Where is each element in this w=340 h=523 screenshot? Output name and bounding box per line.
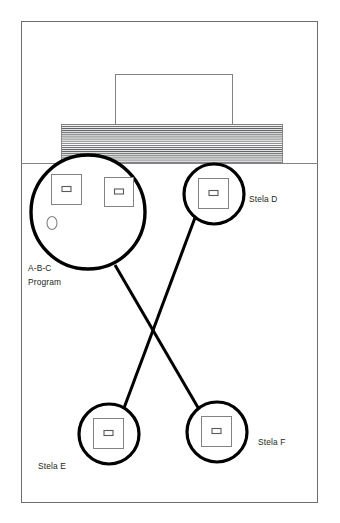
- callout-circle-abc-program: [31, 155, 145, 269]
- callout-stela-f[interactable]: [187, 402, 247, 462]
- stela-b-plan: [105, 178, 134, 207]
- stela-a-plan: [52, 175, 82, 205]
- stela-d-plan: [199, 179, 229, 209]
- upper-building: [116, 75, 233, 125]
- callout-abc-program[interactable]: [31, 155, 145, 269]
- diagram-canvas: A-B-C Program Stela D Stela E Stela F: [0, 0, 340, 523]
- label-stela-d: Stela D: [249, 194, 278, 204]
- altar-oval-plan: [47, 217, 57, 230]
- label-abc-program-line1: A-B-C: [28, 263, 52, 273]
- label-abc-program-line2: Program: [28, 277, 61, 287]
- label-stela-e: Stela E: [38, 461, 66, 471]
- label-stela-f: Stela F: [258, 437, 286, 447]
- callout-stela-e[interactable]: [79, 404, 139, 464]
- callout-stela-d[interactable]: [184, 164, 244, 224]
- stela-f-plan: [202, 417, 232, 447]
- site-plan-diagram: A-B-C Program Stela D Stela E Stela F: [0, 0, 340, 523]
- stela-e-plan: [94, 419, 124, 449]
